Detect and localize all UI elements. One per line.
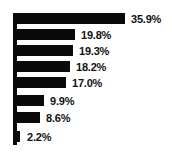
bar-value-label: 19.8%: [81, 29, 111, 40]
bar: [13, 13, 125, 24]
bar: [13, 29, 75, 40]
bar-value-label: 2.2%: [27, 131, 51, 142]
bar-value-label: 35.9%: [131, 13, 161, 24]
bar-chart: 35.9% 19.8% 19.3% 18.2% 17.0% 9.9% 8.6%: [0, 0, 172, 154]
bar-value-label: 17.0%: [72, 77, 102, 88]
bar: [13, 131, 20, 142]
bar: [13, 95, 44, 106]
bar: [13, 77, 66, 88]
bar: [13, 45, 73, 56]
bar-value-label: 19.3%: [79, 45, 109, 56]
bar-value-label: 18.2%: [76, 61, 106, 72]
bar: [13, 112, 40, 123]
bar: [13, 61, 70, 72]
bar-value-label: 9.9%: [50, 95, 74, 106]
plot-area: 35.9% 19.8% 19.3% 18.2% 17.0% 9.9% 8.6%: [0, 0, 172, 154]
bar-value-label: 8.6%: [46, 112, 70, 123]
